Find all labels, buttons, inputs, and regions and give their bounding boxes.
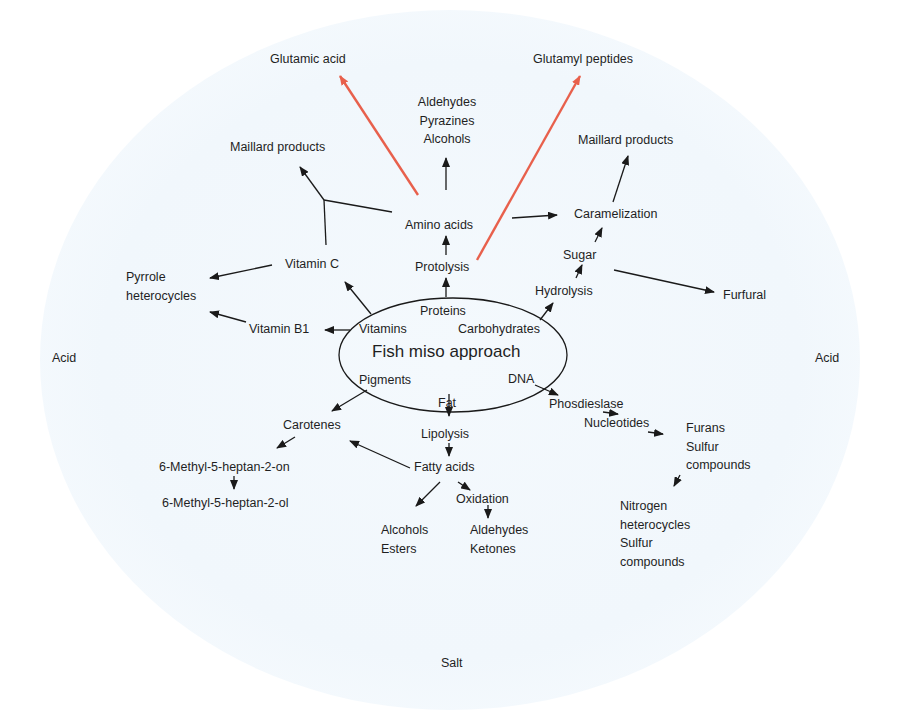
node-maillard-left: Maillard products <box>230 140 325 156</box>
component-fat: Fat <box>438 396 456 412</box>
node-vitamin-b1: Vitamin B1 <box>249 322 309 338</box>
node-aldehydes-pyrazines-alcohols: Aldehydes Pyrazines Alcohols <box>415 95 479 148</box>
node-nucleotides: Nucleotides <box>584 416 649 432</box>
arrow-amino-to-glutamic <box>340 76 418 195</box>
node-lipolysis: Lipolysis <box>421 427 469 443</box>
node-hydrolysis: Hydrolysis <box>535 284 593 300</box>
node-amino-acids: Amino acids <box>405 218 473 234</box>
component-pigments: Pigments <box>359 373 411 389</box>
node-protolysis: Protolysis <box>415 260 469 276</box>
node-pyrrole-heterocycles: Pyrrole heterocycles <box>126 270 196 304</box>
node-vitamin-c: Vitamin C <box>285 257 339 273</box>
node-fatty-acids: Fatty acids <box>414 460 474 476</box>
node-phosdieslase: Phosdieslase <box>549 397 623 413</box>
node-methyl-ol: 6-Methyl-5-heptan-2-ol <box>162 496 288 512</box>
node-glutamic-acid: Glutamic acid <box>270 52 346 68</box>
env-label-salt: Salt <box>441 656 463 672</box>
component-proteins: Proteins <box>420 304 466 320</box>
node-aldehydes-ketones: Aldehydes Ketones <box>470 523 528 557</box>
component-carbohydrates: Carbohydrates <box>458 322 540 338</box>
node-furans-sulfur: Furans Sulfur compounds <box>686 421 751 474</box>
node-caramelization: Caramelization <box>574 207 657 223</box>
node-carotenes: Carotenes <box>283 418 341 434</box>
node-nitrogen-sulfur: Nitrogen heterocycles Sulfur compounds <box>620 499 690 570</box>
node-alcohols-esters: Alcohols Esters <box>381 523 428 557</box>
node-glutamyl-peptides: Glutamyl peptides <box>533 52 633 68</box>
node-oxidation: Oxidation <box>456 492 509 508</box>
center-title: Fish miso approach <box>372 344 520 360</box>
env-label-acid-right: Acid <box>815 351 839 367</box>
component-vitamins: Vitamins <box>359 322 407 338</box>
arrow-protolysis-to-glutamyl <box>477 76 580 260</box>
node-methyl-on: 6-Methyl-5-heptan-2-on <box>159 460 290 476</box>
node-maillard-right: Maillard products <box>578 133 673 149</box>
node-furfural: Furfural <box>723 288 766 304</box>
env-label-acid-left: Acid <box>52 351 76 367</box>
node-sugar: Sugar <box>563 248 596 264</box>
component-dna: DNA <box>508 372 534 388</box>
